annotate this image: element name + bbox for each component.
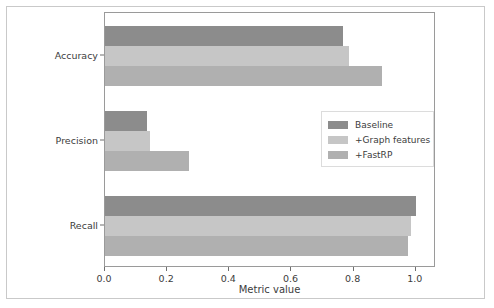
x-tick-mark — [166, 267, 167, 271]
bar-precision-baseline — [105, 111, 147, 131]
chart-figure: AccuracyPrecisionRecall 0.00.20.40.60.81… — [0, 0, 494, 308]
legend-label: +FastRP — [355, 150, 392, 160]
x-axis-label: Metric value — [104, 284, 435, 295]
bar-precision-fastrp — [105, 151, 189, 171]
y-tick-label-recall: Recall — [70, 219, 98, 230]
legend-swatch-icon — [328, 136, 348, 144]
x-tick-mark — [353, 267, 354, 271]
legend-label: Baseline — [355, 120, 393, 130]
x-tick-label-0.4: 0.4 — [221, 273, 236, 284]
bar-accuracy-fastrp — [105, 66, 382, 86]
bar-recall-baseline — [105, 196, 416, 216]
x-tick-mark — [104, 267, 105, 271]
y-axis-tick-labels: AccuracyPrecisionRecall — [0, 12, 98, 267]
y-tick-label-precision: Precision — [56, 134, 98, 145]
legend-item-fastrp[interactable]: +FastRP — [328, 147, 427, 162]
bar-recall-graphfeatures — [105, 216, 411, 236]
x-tick-label-0.2: 0.2 — [159, 273, 174, 284]
chart-legend: Baseline+Graph features+FastRP — [321, 111, 434, 167]
x-tick-label-0.6: 0.6 — [283, 273, 298, 284]
y-tick-label-accuracy: Accuracy — [55, 49, 98, 60]
x-tick-label-0.0: 0.0 — [96, 273, 111, 284]
legend-swatch-icon — [328, 151, 348, 159]
bar-precision-graphfeatures — [105, 131, 150, 151]
bar-recall-fastrp — [105, 236, 408, 256]
y-tick-mark — [100, 54, 104, 55]
legend-item-baseline[interactable]: Baseline — [328, 117, 427, 132]
y-tick-mark — [100, 139, 104, 140]
x-tick-mark — [415, 267, 416, 271]
bar-accuracy-baseline — [105, 26, 343, 46]
legend-item-graphfeatures[interactable]: +Graph features — [328, 132, 427, 147]
x-tick-mark — [290, 267, 291, 271]
y-tick-mark — [100, 224, 104, 225]
legend-label: +Graph features — [355, 135, 430, 145]
x-tick-label-0.8: 0.8 — [345, 273, 360, 284]
bar-accuracy-graphfeatures — [105, 46, 349, 66]
x-tick-label-1.0: 1.0 — [407, 273, 422, 284]
legend-swatch-icon — [328, 121, 348, 129]
x-tick-mark — [228, 267, 229, 271]
